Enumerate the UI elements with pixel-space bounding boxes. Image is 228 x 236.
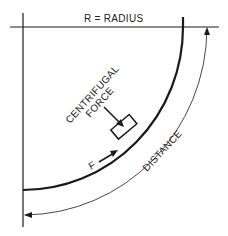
- force-arrowhead-icon: [110, 150, 118, 157]
- centrifugal-force-arrow: [104, 107, 121, 124]
- distance-label: DISTANCE: [140, 128, 184, 174]
- f-label: F: [87, 159, 98, 172]
- centrifugal-force-diagram: R = RADIUS CENTRIFUGAL FORCE F DISTANCE: [0, 0, 228, 236]
- radius-label: R = RADIUS: [84, 13, 143, 24]
- distance-arrowhead-top-icon: [204, 27, 210, 35]
- distance-arrowhead-left-icon: [24, 212, 32, 218]
